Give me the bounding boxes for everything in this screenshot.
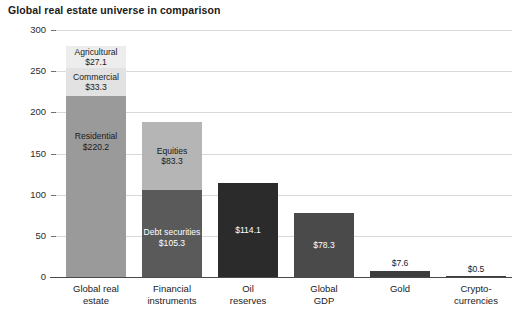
y-axis-tick-label: 50 [0,230,46,241]
x-axis-label-line: currencies [438,295,514,307]
segment-value-label: $114.1 [218,225,278,236]
bar-value-label: $0.5 [446,264,506,275]
x-axis-category-label: Global realestate [58,283,134,306]
x-axis-label-line: GDP [286,295,362,307]
bar-segment[interactable] [446,276,506,277]
y-axis-tick [51,195,56,196]
y-axis-tick [51,154,56,155]
segment-value-label: $27.1 [66,57,126,68]
x-axis-label-line: Global [286,283,362,295]
x-axis-line [50,277,512,278]
y-axis-tick-label: 300 [0,24,46,35]
segment-value-label: $33.3 [66,82,126,93]
bar-segment-label: $78.3 [294,240,354,251]
y-axis-tick [51,71,56,72]
segment-value-label: $78.3 [294,240,354,251]
bar-group[interactable]: $78.3 [294,30,354,277]
segment-value-label: $105.3 [142,238,202,249]
x-axis-label-line: instruments [134,295,210,307]
x-axis-label-line: Financial [134,283,210,295]
y-axis-tick [51,112,56,113]
bar-segment-label: Debt securities$105.3 [142,227,202,248]
bar-segment-label: Agricultural$27.1 [66,47,126,68]
bar-group[interactable]: $7.6 [370,30,430,277]
x-axis-category-label: GlobalGDP [286,283,362,306]
x-axis-category-label: Gold [362,283,438,295]
x-axis-label-line: estate [58,295,134,307]
y-axis-tick [51,236,56,237]
bar-segment[interactable] [66,96,126,277]
x-axis-label-line: Gold [362,283,438,295]
segment-name-label: Agricultural [66,47,126,58]
segment-name-label: Debt securities [142,227,202,238]
x-axis-label-line: Crypto- [438,283,514,295]
x-axis-category-label: Financialinstruments [134,283,210,306]
bar-segment-label: Equities$83.3 [142,146,202,167]
y-axis-tick-label: 0 [0,271,46,282]
y-axis-tick-label: 200 [0,106,46,117]
bar-segment-label: Commercial$33.3 [66,72,126,93]
chart-title: Global real estate universe in compariso… [8,4,220,16]
x-axis-category-label: Crypto-currencies [438,283,514,306]
segment-name-label: Residential [66,131,126,142]
bar-segment[interactable] [370,271,430,277]
segment-name-label: Commercial [66,72,126,83]
bar-segment-label: $114.1 [218,225,278,236]
x-axis-label-line: Oil [210,283,286,295]
bar-group[interactable]: $0.5 [446,30,506,277]
segment-value-label: $220.2 [66,142,126,153]
y-axis-tick-label: 100 [0,189,46,200]
bar-segment-label: Residential$220.2 [66,131,126,152]
x-axis-label-line: Global real [58,283,134,295]
plot-area: Residential$220.2Commercial$33.3Agricult… [56,30,512,277]
y-axis-tick-label: 250 [0,65,46,76]
bar-group[interactable]: $114.1 [218,30,278,277]
x-axis-label-line: reserves [210,295,286,307]
chart-container: Global real estate universe in compariso… [0,0,520,321]
y-axis-tick [51,30,56,31]
segment-value-label: $83.3 [142,156,202,167]
bar-group[interactable]: Residential$220.2Commercial$33.3Agricult… [66,30,126,277]
y-axis-tick-label: 150 [0,148,46,159]
bar-value-label: $7.6 [370,258,430,269]
x-axis-category-label: Oilreserves [210,283,286,306]
segment-name-label: Equities [142,146,202,157]
bar-group[interactable]: Debt securities$105.3Equities$83.3 [142,30,202,277]
